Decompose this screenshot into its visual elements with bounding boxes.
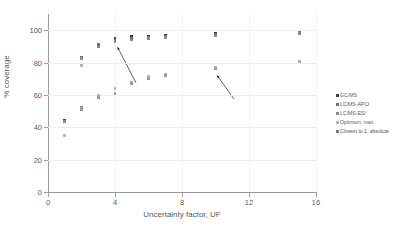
x-tick-value: 0 <box>46 198 50 207</box>
legend-item[interactable]: LC/MS-ESI <box>336 109 404 118</box>
data-point <box>164 36 167 39</box>
y-axis-tick <box>44 95 48 96</box>
x-axis-title: Uncertainty factor, UF <box>48 210 316 219</box>
legend-marker-icon <box>336 103 339 106</box>
legend-label: LC/MS-ESI <box>340 109 366 118</box>
legend-item[interactable]: LC/MS-APCI <box>336 100 404 109</box>
legend-label: GC/MS <box>340 91 357 100</box>
plot-area <box>48 14 316 192</box>
x-axis-tick <box>48 193 49 197</box>
legend-marker-icon <box>336 112 339 115</box>
data-point <box>214 68 217 71</box>
data-point <box>63 120 66 123</box>
y-tick-value: 0 <box>38 188 42 197</box>
x-axis-tick <box>249 193 250 197</box>
y-axis-tick <box>44 30 48 31</box>
legend-label: Optimum, max <box>340 118 373 127</box>
legend-marker-icon <box>336 94 339 97</box>
data-point <box>298 32 301 35</box>
y-axis-tick <box>44 63 48 64</box>
data-point <box>114 40 117 43</box>
gridline-vertical <box>249 14 250 192</box>
x-tick-value: 12 <box>245 198 253 207</box>
legend-marker-icon <box>336 130 339 133</box>
gridline-vertical <box>316 14 317 192</box>
legend-item[interactable]: GC/MS <box>336 91 404 100</box>
chart-figure: 0204060801000481216 Uncertainty factor, … <box>0 0 404 235</box>
x-tick-value: 4 <box>113 198 117 207</box>
x-axis-tick <box>182 193 183 197</box>
data-point <box>114 87 117 90</box>
data-point <box>97 96 100 99</box>
data-point <box>80 57 83 60</box>
data-point <box>63 134 66 137</box>
data-point <box>97 46 100 49</box>
data-point <box>214 35 217 38</box>
y-axis-title: % coverage <box>2 27 11 127</box>
legend-marker-icon <box>336 121 339 124</box>
data-point <box>298 60 301 63</box>
data-point <box>147 37 150 40</box>
data-point <box>147 77 150 80</box>
data-point <box>80 108 83 111</box>
y-tick-value: 100 <box>29 26 42 35</box>
y-tick-value: 80 <box>34 58 42 67</box>
x-axis-tick <box>115 193 116 197</box>
y-tick-value: 60 <box>34 90 42 99</box>
legend-label: Closest to 1, absolute <box>340 127 389 136</box>
legend-item[interactable]: Closest to 1, absolute <box>336 127 404 136</box>
y-tick-value: 40 <box>34 123 42 132</box>
data-point <box>164 74 167 77</box>
chart-legend: GC/MSLC/MS-APCILC/MS-ESIOptimum, maxClos… <box>336 91 404 136</box>
x-tick-value: 16 <box>312 198 320 207</box>
y-axis-tick <box>44 160 48 161</box>
gridline-vertical <box>182 14 183 192</box>
data-point <box>80 64 83 67</box>
data-point <box>130 82 133 85</box>
arrow-upper <box>118 47 136 83</box>
y-tick-value: 20 <box>34 155 42 164</box>
legend-item[interactable]: Optimum, max <box>336 118 404 127</box>
x-tick-value: 8 <box>180 198 184 207</box>
data-point <box>114 92 117 95</box>
data-point <box>130 39 133 42</box>
x-axis-tick <box>316 193 317 197</box>
y-axis-tick <box>44 127 48 128</box>
legend-label: LC/MS-APCI <box>340 100 369 109</box>
